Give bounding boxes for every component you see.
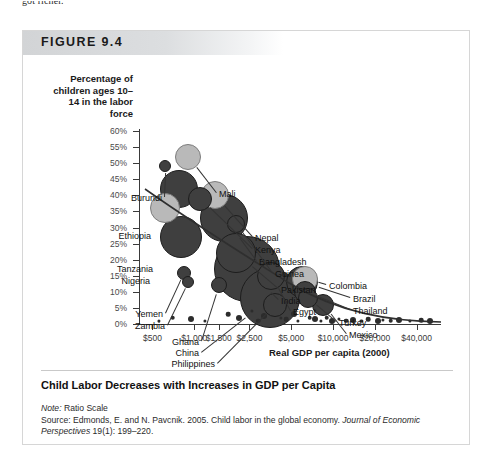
note-label: Note:	[41, 403, 62, 413]
label-burundi: Burundi	[131, 193, 162, 203]
label-guinea: Guinea	[275, 269, 304, 279]
label-ethiopia: Ethiopia	[118, 231, 151, 241]
label-mali: Mali	[219, 189, 236, 199]
label-ghana: Ghana	[172, 337, 199, 347]
figure-number-label: FIGURE 9.4	[41, 35, 123, 49]
y-tick-label: 55%	[81, 142, 127, 152]
note-text: Ratio Scale	[62, 403, 108, 413]
y-tick-label: 45%	[81, 174, 127, 184]
label-china: China	[175, 348, 199, 358]
y-tick-label: 40%	[81, 190, 127, 200]
figure-container: FIGURE 9.4 Percentage of children ages 1…	[22, 30, 470, 445]
label-yemen: Yemen	[135, 309, 163, 319]
chart-area: Percentage of children ages 10–14 in the…	[23, 55, 469, 365]
y-tick-label: 5%	[81, 303, 127, 313]
source-line: Source: Edmonds, E. and N. Pavcnik. 2005…	[41, 415, 457, 438]
label-nigeria: Nigeria	[121, 276, 150, 286]
label-zambia: Zambia	[135, 321, 165, 331]
label-turkey: Turkey	[339, 318, 366, 328]
figure-notes: Note: Ratio Scale Source: Edmonds, E. an…	[41, 403, 457, 438]
page-cutoff-text: got richer.	[22, 0, 64, 6]
label-thailand: Thailand	[353, 306, 388, 316]
x-tick-label: $5,000	[278, 333, 304, 343]
y-tick-label: 0%	[81, 319, 127, 329]
x-tick-label: $40,000	[401, 333, 432, 343]
x-tick-label: $10,000	[318, 333, 349, 343]
label-nepal: Nepal	[255, 233, 279, 243]
y-tick-label: 10%	[81, 287, 127, 297]
y-tick-label: 60%	[81, 126, 127, 136]
figure-caption: Child Labor Decreases with Increases in …	[41, 379, 335, 391]
label-pakistan: Pakistan	[281, 285, 316, 295]
y-tick-label: 50%	[81, 158, 127, 168]
source-label: Source:	[41, 415, 71, 425]
y-tick-label: 35%	[81, 206, 127, 216]
note-line: Note: Ratio Scale	[41, 403, 457, 415]
label-philippines: Philippines	[171, 359, 215, 369]
y-axis-title: Percentage of children ages 10–14 in the…	[45, 73, 133, 119]
label-mexico: Mexico	[349, 330, 378, 340]
x-axis-title: Real GDP per capita (2000)	[269, 347, 390, 358]
label-tanzania: Tanzania	[117, 264, 153, 274]
caption-divider	[41, 370, 453, 371]
label-colombia: Colombia	[329, 281, 367, 291]
label-egypt: Egypt	[293, 307, 316, 317]
source-tail: 19(1): 199–220.	[90, 426, 153, 436]
y-axis-title-text: Percentage of children ages 10–14 in the…	[53, 73, 133, 119]
source-text: Edmonds, E. and N. Pavcnik. 2005. Child …	[71, 415, 343, 425]
label-brazil: Brazil	[353, 294, 376, 304]
x-tick-label: $500	[143, 333, 162, 343]
